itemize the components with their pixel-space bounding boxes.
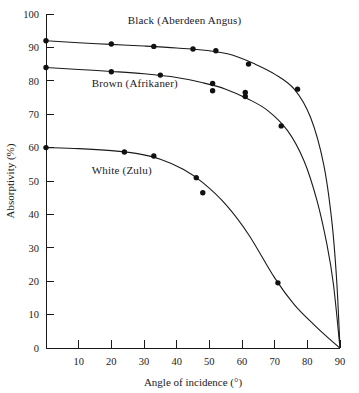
series-curve-0 bbox=[46, 41, 340, 348]
data-point-marker bbox=[210, 81, 215, 86]
x-axis-title: Angle of incidence (°) bbox=[144, 376, 242, 389]
data-point-marker bbox=[151, 153, 156, 158]
y-tick-label: 20 bbox=[29, 276, 40, 287]
x-tick-label: 70 bbox=[269, 356, 280, 367]
y-tick-label: 30 bbox=[29, 243, 40, 254]
x-tick-label: 50 bbox=[204, 356, 215, 367]
chart-axes bbox=[46, 14, 340, 348]
y-tick-label: 10 bbox=[29, 309, 40, 320]
data-point-marker bbox=[295, 86, 300, 91]
x-tick-label: 30 bbox=[139, 356, 150, 367]
data-point-marker bbox=[122, 149, 127, 154]
y-tick-label: 70 bbox=[29, 109, 40, 120]
data-point-marker bbox=[190, 46, 195, 51]
data-point-marker bbox=[243, 94, 248, 99]
y-tick-label: 80 bbox=[29, 76, 40, 87]
data-point-marker bbox=[43, 145, 48, 150]
data-point-marker bbox=[194, 175, 199, 180]
data-point-marker bbox=[43, 65, 48, 70]
series-curve-2 bbox=[46, 148, 340, 348]
data-point-marker bbox=[246, 61, 251, 66]
data-point-marker bbox=[43, 38, 48, 43]
data-point-marker bbox=[213, 48, 218, 53]
chart-canvas: 0102030405060708090100102030405060708090… bbox=[0, 0, 359, 393]
x-tick-label: 10 bbox=[73, 356, 84, 367]
y-axis-title: Absorptivity (%) bbox=[4, 143, 17, 218]
series-label-1: Brown (Afrikaner) bbox=[92, 77, 178, 90]
data-point-marker bbox=[275, 280, 280, 285]
absorptivity-chart-figure: 0102030405060708090100102030405060708090… bbox=[0, 0, 359, 393]
data-point-marker bbox=[200, 190, 205, 195]
x-tick-label: 90 bbox=[335, 356, 346, 367]
y-tick-label: 90 bbox=[29, 42, 40, 53]
data-point-marker bbox=[151, 44, 156, 49]
series-label-0: Black (Aberdeen Angus) bbox=[128, 14, 242, 27]
data-point-marker bbox=[109, 41, 114, 46]
y-tick-label: 40 bbox=[29, 209, 40, 220]
y-tick-label: 100 bbox=[23, 9, 39, 20]
series-label-2: White (Zulu) bbox=[92, 164, 152, 177]
x-tick-label: 40 bbox=[171, 356, 182, 367]
y-tick-label: 60 bbox=[29, 142, 40, 153]
x-tick-label: 20 bbox=[106, 356, 117, 367]
data-point-marker bbox=[279, 123, 284, 128]
x-tick-label: 80 bbox=[302, 356, 313, 367]
x-tick-label: 60 bbox=[237, 356, 248, 367]
y-tick-label: 0 bbox=[34, 343, 39, 354]
data-point-marker bbox=[109, 69, 114, 74]
y-tick-label: 50 bbox=[29, 176, 40, 187]
data-point-marker bbox=[210, 88, 215, 93]
